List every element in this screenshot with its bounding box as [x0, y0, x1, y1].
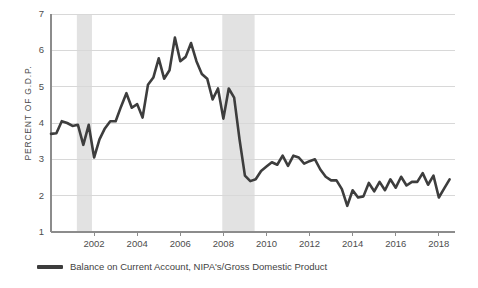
- x-tick-label-2010: 2010: [246, 239, 286, 249]
- x-tick-label-2008: 2008: [203, 239, 243, 249]
- x-tick-label-2016: 2016: [376, 239, 416, 249]
- y-tick-label-1: 1: [26, 227, 44, 237]
- y-tick-label-5: 5: [26, 82, 44, 92]
- x-tick-label-2014: 2014: [333, 239, 373, 249]
- chart-legend: Balance on Current Account, NIPA's/Gross…: [37, 261, 327, 272]
- y-tick-label-4: 4: [26, 118, 44, 128]
- x-tick-label-2002: 2002: [74, 239, 114, 249]
- x-tick-label-2006: 2006: [160, 239, 200, 249]
- y-tick-label-6: 6: [26, 45, 44, 55]
- x-tick-label-2012: 2012: [290, 239, 330, 249]
- legend-swatch-series-1: [37, 265, 63, 269]
- x-tick-label-2004: 2004: [117, 239, 157, 249]
- y-tick-label-7: 7: [26, 9, 44, 19]
- x-tick-label-2018: 2018: [419, 239, 459, 249]
- y-tick-label-3: 3: [26, 154, 44, 164]
- y-tick-label-2: 2: [26, 191, 44, 201]
- legend-label-series-1: Balance on Current Account, NIPA's/Gross…: [70, 261, 327, 272]
- chart-container: PERCENT OF G.D.P. 1234567 20022004200620…: [0, 0, 478, 288]
